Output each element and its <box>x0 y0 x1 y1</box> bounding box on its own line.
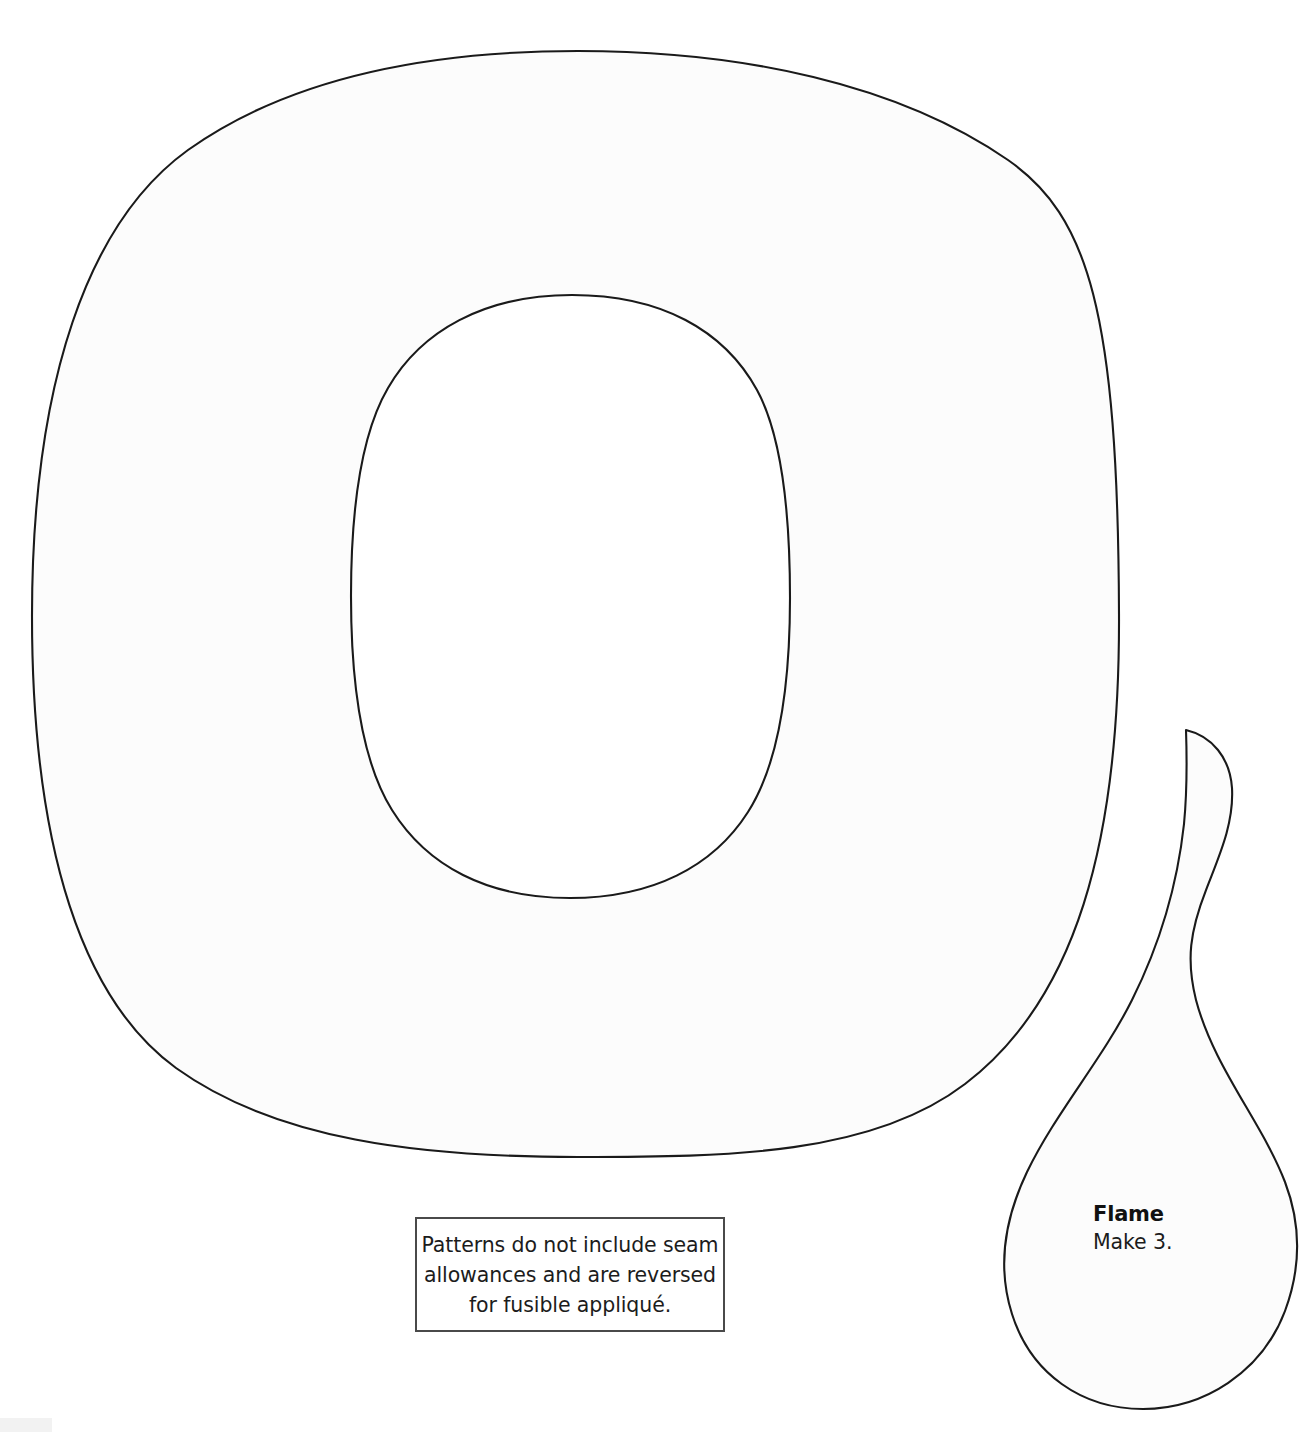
note-line-3: for fusible appliqué. <box>469 1290 671 1320</box>
flame-piece-quantity: Make 3. <box>1093 1228 1293 1256</box>
flame-piece-title: Flame <box>1093 1201 1293 1228</box>
ring-o-shape[interactable] <box>32 51 1119 1157</box>
pattern-sheet-page: Patterns do not include seam allowances … <box>0 0 1316 1437</box>
scan-artifact <box>0 1418 52 1432</box>
pattern-note-box: Patterns do not include seam allowances … <box>415 1217 725 1332</box>
note-line-1: Patterns do not include seam <box>422 1230 719 1260</box>
note-line-2: allowances and are reversed <box>424 1260 716 1290</box>
flame-piece-label: Flame Make 3. <box>1093 1201 1293 1256</box>
